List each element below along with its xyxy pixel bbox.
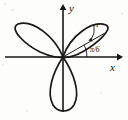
radius-label: 1: [96, 21, 100, 29]
y-axis-arrowhead-icon: [60, 4, 67, 10]
upper-right-petal: [63, 24, 108, 57]
polar-rose-figure: 1 π/6 y x: [0, 0, 128, 120]
angle-label: π/6: [90, 45, 100, 54]
y-axis-label: y: [68, 2, 74, 14]
rose-curve-group: [15, 23, 108, 111]
x-axis-label: x: [109, 61, 115, 73]
upper-left-petal: [15, 23, 63, 57]
x-axis-arrowhead-icon: [117, 54, 123, 61]
polar-rose-svg: 1 π/6 y x: [0, 0, 128, 120]
